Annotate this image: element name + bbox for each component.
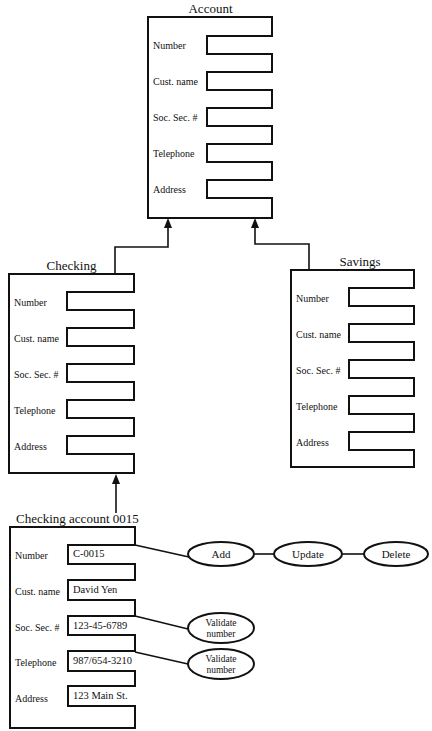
- instance-field-cust-name-label: Cust. name: [15, 586, 60, 598]
- instance-field-address-value: 123 Main St.: [73, 690, 128, 702]
- instance-field-cust-name-value: David Yen: [73, 584, 117, 596]
- instance-field-address-label: Address: [15, 693, 48, 705]
- ssn-to-validate-connector: [135, 616, 188, 629]
- account-field-number: Number: [153, 40, 186, 52]
- savings-field-number: Number: [296, 293, 329, 305]
- add-operation-label[interactable]: Add: [188, 548, 254, 560]
- account-field-ssn: Soc. Sec. #: [153, 112, 197, 124]
- validate-ssn-label-line2[interactable]: number: [188, 629, 254, 639]
- arrowhead-icon: [251, 218, 259, 228]
- instance-field-telephone-value: 987/654-3210: [73, 655, 132, 667]
- checking-field-ssn: Soc. Sec. #: [14, 369, 58, 381]
- savings-class-title: Savings: [320, 254, 400, 269]
- savings-field-ssn: Soc. Sec. #: [296, 365, 340, 377]
- account-field-cust-name: Cust. name: [153, 76, 198, 88]
- account-class-title: Account: [148, 1, 273, 16]
- validate-ssn-label-line1[interactable]: Validate: [188, 618, 254, 628]
- instance-object-title: Checking account 0015: [10, 511, 151, 526]
- savings-field-cust-name: Cust. name: [296, 329, 341, 341]
- checking-field-telephone: Telephone: [14, 405, 56, 417]
- checking-class-title: Checking: [9, 258, 134, 273]
- instance-field-number-value: C-0015: [73, 548, 105, 560]
- phone-to-validate-connector: [135, 652, 188, 664]
- instance-field-ssn-label: Soc. Sec. #: [15, 622, 59, 634]
- instance-field-telephone-label: Telephone: [15, 657, 57, 669]
- validate-phone-label-line1[interactable]: Validate: [188, 654, 254, 664]
- account-field-address: Address: [153, 184, 186, 196]
- update-operation-label[interactable]: Update: [274, 548, 342, 560]
- savings-field-address: Address: [296, 437, 329, 449]
- instance-field-number-label: Number: [15, 550, 48, 562]
- checking-field-address: Address: [14, 441, 47, 453]
- account-field-telephone: Telephone: [153, 148, 195, 160]
- savings-field-telephone: Telephone: [296, 401, 338, 413]
- delete-operation-label[interactable]: Delete: [364, 548, 428, 560]
- checking-field-number: Number: [14, 297, 47, 309]
- arrowhead-icon: [112, 474, 120, 484]
- savings-to-account-connector: [255, 226, 309, 270]
- checking-field-cust-name: Cust. name: [14, 333, 59, 345]
- validate-phone-label-line2[interactable]: number: [188, 665, 254, 675]
- number-to-add-connector: [135, 545, 189, 557]
- instance-field-ssn-value: 123-45-6789: [73, 620, 127, 632]
- arrowhead-icon: [164, 218, 172, 228]
